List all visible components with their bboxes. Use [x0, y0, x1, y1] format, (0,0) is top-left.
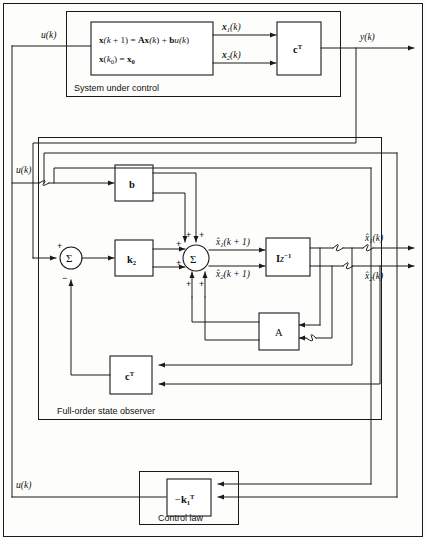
label-x1: x1(k) — [221, 22, 241, 33]
feedback-gain-block — [167, 479, 211, 516]
control-law-caption: Control law — [158, 513, 204, 523]
state-summer-glyph: Σ — [190, 253, 196, 265]
error-summer-sign-minus: − — [62, 273, 67, 283]
wire-A-out2-to-summer-path — [205, 297, 259, 340]
observer-caption: Full-order state observer — [57, 406, 155, 416]
label-u-observer: u(k) — [16, 165, 31, 176]
k2-gain-block — [115, 240, 153, 276]
wire-observer-ct-to-error-summer — [71, 280, 110, 375]
block-diagram-figure: u(k) x(k + 1) = Ax(k) + bu(k) x(k0) = x0… — [0, 0, 426, 540]
error-summer-sign-plus: + — [57, 241, 62, 251]
error-summer-glyph: Σ — [66, 252, 72, 264]
label-xhat2-next: x̂2(k + 1) — [215, 269, 250, 280]
wire-observer-second-bus — [54, 168, 371, 183]
plant-equation-line2: x(k0) = x0 — [99, 54, 135, 65]
diagram-canvas: u(k) x(k + 1) = Ax(k) + bu(k) x(k0) = x0… — [0, 0, 426, 540]
observer-section-frame — [39, 138, 382, 420]
label-x2: x2(k) — [221, 50, 241, 61]
state-summer-sign-1: + — [186, 230, 191, 240]
state-summer-sign-2: + — [199, 230, 204, 240]
label-y-output: y(k) — [359, 32, 375, 43]
state-summer-sign-4: + — [176, 258, 181, 268]
wire-hop-out1 — [333, 245, 343, 252]
label-u-control-law: u(k) — [16, 480, 31, 491]
state-summer-sign-6: + — [199, 279, 204, 289]
label-xhat1: x̂1(k) — [364, 233, 383, 244]
state-summer-sign-5: + — [186, 279, 191, 289]
wire-b-out2-to-summer — [153, 193, 185, 242]
state-summer-sign-3: + — [176, 239, 181, 249]
b-gain-label: b — [129, 179, 135, 190]
plant-equation-block — [91, 22, 213, 75]
wire-hop-A-input — [306, 335, 316, 342]
label-xhat1-next: x̂1(k + 1) — [215, 237, 250, 248]
plant-caption: System under control — [74, 83, 159, 93]
label-u-plant: u(k) — [41, 30, 56, 41]
tap-xhat2-down — [316, 266, 332, 338]
plant-equation-line1: x(k + 1) = Ax(k) + bu(k) — [99, 35, 189, 45]
wire-A-out1-to-summer-path — [192, 297, 259, 322]
a-matrix-label: A — [275, 327, 283, 338]
